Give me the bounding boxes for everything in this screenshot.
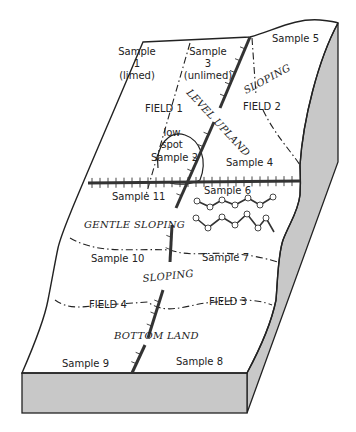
svg-text:Sample: Sample — [189, 46, 227, 57]
front-face — [22, 373, 247, 413]
svg-text:3: 3 — [205, 58, 211, 69]
bottom-land-label: BOTTOM LAND — [113, 330, 199, 341]
sample-5-label: Sample 5 — [272, 33, 319, 44]
sample-1-label: Sample 1 (limed) — [118, 46, 156, 81]
sample-10-label: Sample 10 — [91, 253, 144, 264]
field-4-label: FIELD 4 — [89, 299, 127, 310]
sample-2-label: Sample 2 — [151, 152, 198, 163]
sample-3-label: Sample 3 (unlimed) — [184, 46, 232, 81]
field-3-label: FIELD 3 — [209, 296, 247, 307]
sample-7-label: Sample 7 — [202, 252, 249, 263]
sample-9-label: Sample 9 — [62, 358, 109, 369]
sample-6-collection-path — [193, 194, 276, 232]
low-spot-label-2: spot — [161, 139, 183, 150]
sample-4-label: Sample 4 — [226, 157, 273, 168]
field-boundary-1-3 — [146, 43, 190, 195]
svg-text:Sample: Sample — [118, 46, 156, 57]
sample-11-label: Sample 11 — [112, 191, 165, 202]
field-2-label: FIELD 2 — [243, 101, 281, 112]
sample-6-label: Sample 6 — [204, 185, 251, 196]
svg-text:(unlimed): (unlimed) — [184, 70, 232, 81]
level-upland-label: LEVEL UPLAND — [184, 86, 253, 158]
svg-text:1: 1 — [134, 58, 140, 69]
sloping-mid-label: SLOPING — [142, 268, 194, 284]
svg-text:(limed): (limed) — [119, 70, 155, 81]
field-1-label: FIELD 1 — [145, 103, 183, 114]
farm-block-diagram: Sample 1 (limed) Sample 3 (unlimed) Samp… — [0, 0, 356, 432]
gentle-sloping-label: GENTLE SLOPING — [84, 219, 185, 230]
sample-8-label: Sample 8 — [176, 356, 223, 367]
sloping-top-label: SLOPING — [242, 62, 292, 96]
low-spot-label-1: low — [163, 127, 180, 138]
